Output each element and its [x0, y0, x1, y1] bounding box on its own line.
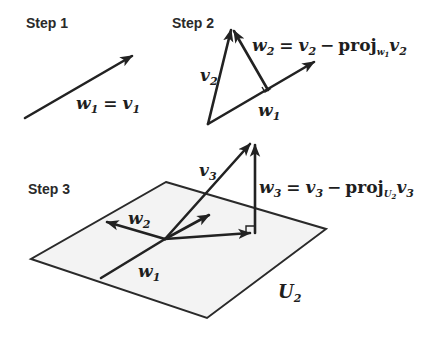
plane-u2-label: U2	[278, 281, 302, 305]
step-2: Step 2 v2 w1 w2=v2−projw1v2	[172, 15, 407, 124]
step-3-equation: w3=v3−projU2v3	[259, 177, 414, 201]
step-3: Step 3 U2 v3 w2 w1 w3=v3−projU2v3	[28, 144, 414, 318]
step-1: Step 1 w1=v1	[25, 15, 140, 118]
step-1-label: Step 1	[26, 15, 68, 31]
v3-label: v3	[199, 160, 217, 183]
step-3-label: Step 3	[28, 181, 70, 197]
step-1-equation: w1=v1	[76, 93, 140, 116]
step-2-label: Step 2	[172, 15, 214, 31]
step-2-equation: w2=v2−projw1v2	[252, 35, 407, 59]
gram-schmidt-diagram: Step 1 w1=v1 Step 2 v2 w1 w2=v2−projw1v2…	[0, 0, 443, 338]
w1-label: w1	[258, 100, 280, 123]
v2-label: v2	[200, 65, 218, 88]
